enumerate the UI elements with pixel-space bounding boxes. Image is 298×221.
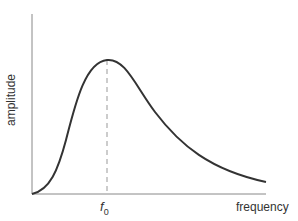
y-axis-label: amplitude bbox=[4, 74, 18, 126]
x-axis-label: frequency bbox=[236, 200, 289, 214]
f0-label: f0 bbox=[100, 199, 109, 217]
chart-plot bbox=[0, 0, 298, 221]
amplitude-curve bbox=[32, 60, 266, 194]
